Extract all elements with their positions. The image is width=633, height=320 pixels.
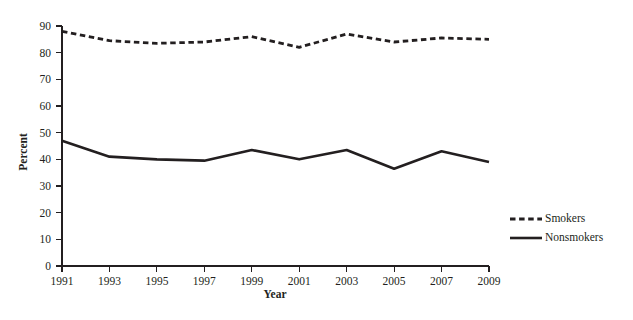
legend-label-smokers: Smokers bbox=[545, 212, 586, 224]
y-tick-label: 0 bbox=[45, 260, 51, 272]
x-tick-label: 2005 bbox=[383, 275, 406, 287]
chart-background bbox=[0, 0, 633, 320]
y-tick-label: 50 bbox=[40, 127, 52, 139]
y-tick-label: 20 bbox=[40, 207, 52, 219]
x-tick-label: 2007 bbox=[430, 275, 453, 287]
x-tick-label: 2001 bbox=[288, 275, 311, 287]
x-tick-label: 1991 bbox=[51, 275, 74, 287]
y-tick-label: 90 bbox=[40, 20, 52, 32]
x-tick-label: 1999 bbox=[240, 275, 263, 287]
y-tick-label: 30 bbox=[40, 180, 52, 192]
legend-label-nonsmokers: Nonsmokers bbox=[545, 231, 604, 243]
y-tick-label: 10 bbox=[40, 233, 52, 245]
x-tick-label: 1995 bbox=[145, 275, 168, 287]
chart-container: 0102030405060708090 Percent 199119931995… bbox=[0, 0, 633, 320]
x-tick-label: 2003 bbox=[335, 275, 358, 287]
x-tick-label: 1997 bbox=[193, 275, 216, 287]
x-tick-label: 2009 bbox=[478, 275, 501, 287]
x-axis-title: Year bbox=[264, 288, 287, 300]
y-tick-label: 70 bbox=[40, 73, 52, 85]
y-tick-label: 60 bbox=[40, 100, 52, 112]
x-tick-label: 1993 bbox=[98, 275, 121, 287]
y-tick-label: 80 bbox=[40, 47, 52, 59]
y-axis-title: Percent bbox=[17, 133, 29, 171]
y-tick-label: 40 bbox=[40, 153, 52, 165]
line-chart: 0102030405060708090 Percent 199119931995… bbox=[0, 0, 633, 320]
